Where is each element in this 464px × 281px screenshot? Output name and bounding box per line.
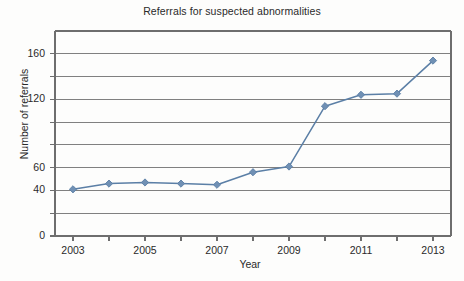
chart-figure: Referrals for suspected abnormalities Nu… [0,0,464,281]
data-point-marker [249,169,256,176]
data-point-marker [105,180,112,187]
y-tick-label: 0 [15,229,45,241]
data-point-marker [213,181,220,188]
plot-area [0,0,464,281]
y-tick-label: 120 [15,92,45,104]
x-tick-label: 2009 [269,244,309,256]
data-markers [69,57,436,193]
gridlines [55,54,451,236]
data-point-marker [141,179,148,186]
x-tick-label: 2005 [125,244,165,256]
x-tick-label: 2013 [413,244,453,256]
axis-lines [55,31,451,236]
y-tick-label: 160 [15,47,45,59]
data-point-marker [285,163,292,170]
x-tick-label: 2011 [341,244,381,256]
data-point-marker [177,180,184,187]
data-point-marker [321,103,328,110]
x-tick-label: 2003 [53,244,93,256]
y-tick-label: 40 [15,183,45,195]
data-point-marker [69,186,76,193]
y-tick-label: 60 [15,161,45,173]
data-point-marker [357,91,364,98]
x-tick-label: 2007 [197,244,237,256]
